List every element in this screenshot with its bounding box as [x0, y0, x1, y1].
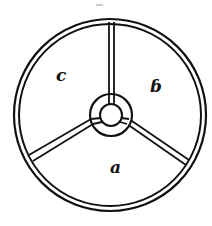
hub-inner	[100, 104, 122, 126]
spoke-lower-right	[127, 119, 189, 165]
sector-label-b: ɓ	[150, 76, 162, 96]
wheel-diagram: c ɓ a	[0, 0, 212, 226]
sector-label-a: a	[110, 157, 121, 177]
sector-label-c: c	[56, 65, 67, 85]
spoke-top	[109, 22, 114, 94]
spoke-lower-left	[29, 119, 93, 161]
